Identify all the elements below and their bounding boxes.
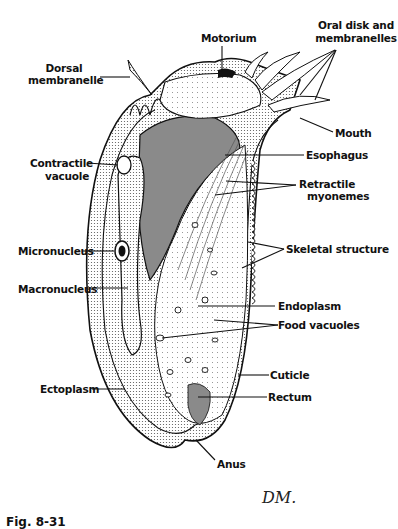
label-cuticle: Cuticle [270, 369, 309, 381]
label-macronucleus: Macronucleus [18, 283, 97, 295]
label-retractile-line1: Retractile [299, 178, 355, 190]
label-esophagus: Esophagus [306, 149, 368, 161]
label-oral-disk-line1: Oral disk and [312, 19, 398, 31]
label-anus: Anus [217, 458, 246, 470]
label-contractile-line2: vacuole [45, 170, 89, 182]
artist-signature: DM. [262, 488, 296, 507]
label-retractile-line2: myonemes [307, 190, 369, 202]
dorsal-membranelle-shape [128, 60, 152, 95]
motorium-region [160, 74, 261, 119]
figure-caption: Fig. 8-31 [6, 515, 66, 529]
label-dorsal-line1: Dorsal [30, 62, 98, 74]
label-dorsal-line2: membranelle [28, 74, 100, 86]
label-rectum: Rectum [268, 391, 312, 403]
label-contractile-line1: Contractile [30, 157, 93, 169]
label-skeletal-structure: Skeletal structure [286, 243, 389, 255]
label-motorium: Motorium [201, 32, 245, 44]
label-micronucleus: Micronucleus [18, 245, 94, 257]
label-ectoplasm: Ectoplasm [40, 383, 99, 395]
label-mouth: Mouth [335, 127, 372, 139]
label-oral-disk-line2: membranelles [312, 32, 398, 44]
label-food-vacuoles: Food vacuoles [278, 319, 360, 331]
label-endoplasm: Endoplasm [278, 300, 341, 312]
contractile-vacuole-shape [117, 156, 131, 174]
